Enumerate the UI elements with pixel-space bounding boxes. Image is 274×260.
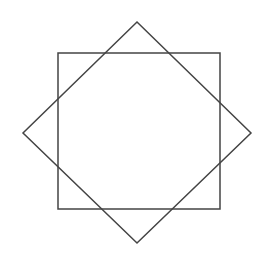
diagram-canvas xyxy=(0,0,274,260)
rotated-square xyxy=(23,22,251,243)
octagram-diagram xyxy=(0,0,274,260)
